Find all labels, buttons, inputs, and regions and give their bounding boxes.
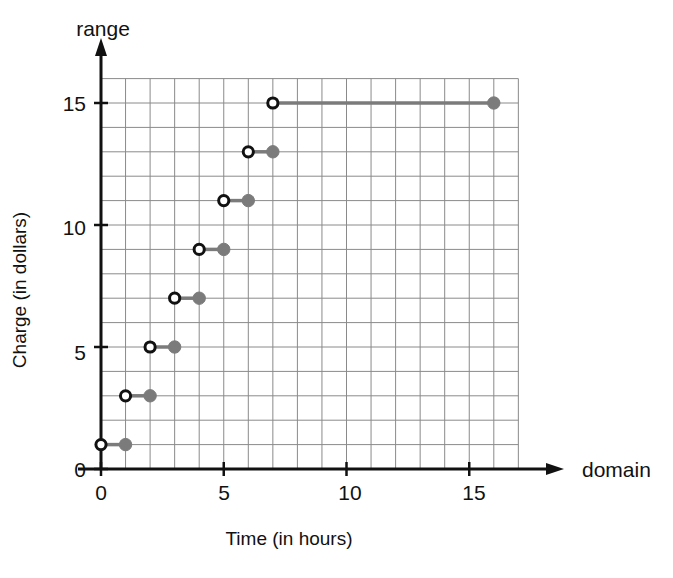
- open-endpoint-marker: [219, 196, 229, 206]
- open-endpoint-marker: [243, 147, 253, 157]
- open-endpoint-marker: [145, 342, 155, 352]
- closed-endpoint-marker: [242, 194, 254, 206]
- closed-endpoint-marker: [119, 438, 131, 450]
- x-tick-label-0: 0: [95, 481, 107, 504]
- x-tick-label-5: 5: [218, 481, 230, 504]
- closed-endpoint-marker: [218, 243, 230, 255]
- open-endpoint-marker: [120, 391, 130, 401]
- closed-endpoint-marker: [267, 146, 279, 158]
- grid-lines: [101, 79, 518, 469]
- open-endpoint-marker: [194, 244, 204, 254]
- x-axis-title: Time (in hours): [225, 528, 352, 549]
- y-tick-label-15: 15: [63, 92, 86, 115]
- closed-endpoint-marker: [193, 292, 205, 304]
- chart-canvas: 0 5 10 15 0 5 10 15 range domain Time (i…: [0, 0, 673, 578]
- y-tick-label-10: 10: [63, 216, 86, 239]
- x-axis-arrowhead: [546, 463, 564, 475]
- x-tick-label-15: 15: [462, 481, 485, 504]
- closed-endpoint-marker: [144, 390, 156, 402]
- open-endpoint-marker: [170, 293, 180, 303]
- y-tick-label-0: 0: [74, 458, 86, 481]
- closed-endpoint-marker: [488, 97, 500, 109]
- y-axis-title: Charge (in dollars): [9, 212, 30, 368]
- range-axis-label: range: [76, 17, 130, 40]
- y-tick-label-5: 5: [74, 341, 86, 364]
- x-tick-label-10: 10: [338, 481, 361, 504]
- domain-axis-label: domain: [582, 458, 651, 481]
- y-axis-arrowhead: [95, 38, 107, 56]
- step-function-chart: 0 5 10 15 0 5 10 15 range domain Time (i…: [0, 0, 673, 578]
- open-endpoint-marker: [268, 98, 278, 108]
- open-endpoint-marker: [96, 440, 106, 450]
- closed-endpoint-marker: [168, 341, 180, 353]
